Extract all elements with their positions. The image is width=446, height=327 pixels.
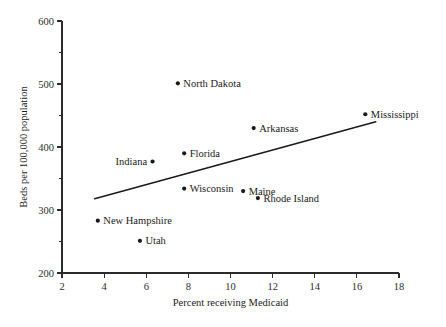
- data-point-marker[interactable]: [138, 239, 142, 243]
- x-tick-label: 8: [186, 281, 191, 292]
- axes-group: 20030040050060024681012141618: [38, 16, 404, 292]
- x-tick-label: 6: [144, 281, 149, 292]
- data-point-label: Florida: [190, 148, 221, 159]
- data-point-label: Rhode Island: [263, 193, 319, 204]
- data-point-label: New Hampshire: [103, 215, 172, 226]
- data-points-group: North DakotaMississippiArkansasFloridaIn…: [96, 78, 419, 247]
- data-point-marker[interactable]: [150, 159, 154, 163]
- axis-titles-group: Percent receiving MedicaidBeds per 100,0…: [18, 86, 289, 308]
- data-point-label: North Dakota: [183, 78, 241, 89]
- data-point-label: Wisconsin: [190, 183, 235, 194]
- x-tick-label: 4: [102, 281, 108, 292]
- data-point-marker[interactable]: [363, 112, 367, 116]
- y-tick-label: 300: [38, 205, 54, 216]
- scatter-chart: 20030040050060024681012141618 North Dako…: [0, 0, 446, 327]
- x-tick-label: 2: [59, 281, 64, 292]
- data-point-label: Indiana: [116, 156, 148, 167]
- x-tick-label: 18: [394, 281, 405, 292]
- data-point-marker[interactable]: [182, 186, 186, 190]
- data-point-label: Arkansas: [259, 123, 298, 134]
- figure-container: 20030040050060024681012141618 North Dako…: [0, 0, 446, 327]
- data-point-marker[interactable]: [252, 126, 256, 130]
- y-tick-label: 500: [38, 79, 54, 90]
- y-axis-title: Beds per 100,000 population: [18, 86, 29, 208]
- x-axis-title: Percent receiving Medicaid: [173, 297, 289, 308]
- y-tick-label: 200: [38, 268, 54, 279]
- x-tick-label: 14: [310, 281, 321, 292]
- data-point-marker[interactable]: [182, 151, 186, 155]
- y-tick-label: 600: [38, 16, 54, 27]
- x-tick-label: 16: [352, 281, 363, 292]
- x-tick-label: 12: [267, 281, 278, 292]
- y-tick-label: 400: [38, 142, 54, 153]
- x-tick-label: 10: [225, 281, 236, 292]
- data-point-marker[interactable]: [256, 196, 260, 200]
- data-point-label: Utah: [145, 235, 166, 246]
- data-point-label: Mississippi: [371, 109, 419, 120]
- data-point-marker[interactable]: [241, 189, 245, 193]
- data-point-marker[interactable]: [176, 81, 180, 85]
- data-point-marker[interactable]: [96, 219, 100, 223]
